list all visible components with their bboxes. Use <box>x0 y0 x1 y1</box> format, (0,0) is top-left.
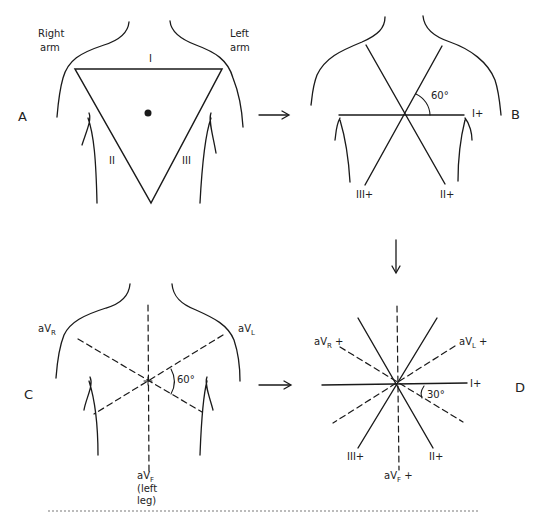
label-right-arm-1: Right <box>38 28 64 40</box>
label-lead-I: I <box>149 53 152 65</box>
label-lead-II-pos-b: II+ <box>440 189 454 201</box>
caption-cutoff <box>48 510 478 516</box>
heart-dot <box>145 110 152 117</box>
label-lead-II-pos-d: II+ <box>429 451 443 463</box>
einthoven-triangle <box>75 69 222 203</box>
label-aVR-c: aVR <box>38 323 56 336</box>
label-angle-60-b: 60° <box>431 90 449 102</box>
arrow-a-to-b <box>259 111 289 119</box>
label-angle-30-d: 30° <box>427 389 445 401</box>
angle-arc-60 <box>416 94 430 115</box>
panel-letter-c: C <box>24 387 33 402</box>
label-right-arm-2: arm <box>40 42 60 54</box>
label-aVF-note-2: leg) <box>137 495 156 507</box>
label-lead-I-pos-d: I+ <box>470 378 481 390</box>
label-aVL-c: aVL <box>238 323 255 336</box>
angle-arc-60-c <box>171 369 174 394</box>
lead-axes-bipolar <box>339 45 464 185</box>
label-lead-II: II <box>109 155 115 167</box>
label-left-arm-2: arm <box>230 42 250 54</box>
label-lead-I-pos-b: I+ <box>472 108 483 120</box>
label-lead-III-pos-d: III+ <box>347 451 364 463</box>
arrow-c-to-d <box>259 381 291 389</box>
lead-axes-augmented <box>78 305 223 472</box>
center-star <box>144 377 152 385</box>
arrow-b-to-d <box>392 240 400 273</box>
panel-letter-b: B <box>511 107 520 122</box>
label-aVL-pos-d: aVL + <box>459 336 487 349</box>
panel-letter-d: D <box>515 380 525 395</box>
aVF-axis <box>148 305 149 472</box>
hexaxial-reference <box>322 306 467 470</box>
panel-b-torso <box>311 16 501 182</box>
label-aVF-pos-d: aVF + <box>384 470 413 483</box>
label-left-arm-1: Left <box>230 28 249 40</box>
panel-letter-a: A <box>18 109 27 124</box>
label-angle-60-c: 60° <box>177 374 195 386</box>
label-aVF-c: aVF <box>137 470 154 483</box>
label-aVR-pos-d: aVR + <box>314 336 343 349</box>
label-lead-III: III <box>182 155 191 167</box>
label-aVF-note-1: (left <box>137 483 157 495</box>
label-lead-III-pos-b: III+ <box>356 189 373 201</box>
diagram-canvas <box>0 0 545 519</box>
angle-arc-30 <box>421 386 424 398</box>
